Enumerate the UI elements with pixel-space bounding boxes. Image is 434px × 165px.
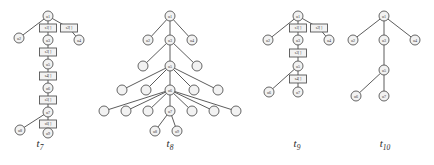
t9-node-u7-label: u7 [296, 90, 300, 95]
t7-node-s2: s2[ ] [61, 24, 78, 32]
tree-edge [170, 90, 236, 111]
caption-t10-subscript: 10 [383, 143, 391, 152]
t7-node-s1: s1[ ] [40, 24, 57, 32]
t8-leaf-a [138, 61, 148, 71]
caption-t8: t8 [140, 137, 200, 152]
t8-node-u6-label: u6 [168, 88, 172, 93]
t8-leaf-i [143, 106, 153, 116]
t7-node-s6-label: s6[ ] [45, 122, 52, 126]
t7-node-u7-label: u7 [46, 110, 50, 115]
t8-node-u4: u4 [187, 35, 197, 45]
t10-node-u6-label: u6 [354, 94, 358, 99]
t7-node-u8-label: u8 [18, 128, 22, 133]
caption-t9: t9 [267, 137, 327, 152]
t9-node-u4: u4 [324, 35, 334, 45]
t7-node-s6: s6[ ] [40, 120, 57, 128]
t8-leaf-l [231, 106, 241, 116]
t8-node-u3-label: u3 [168, 38, 172, 43]
t9-node-u1: u1 [293, 11, 303, 21]
tree-t9: u1s1[ ]s2[ ]u2u3u4s3[ ]u5s4[ ]u6u7 [263, 11, 334, 97]
t8-node-u4-label: u4 [190, 38, 194, 43]
t8-leaf-j [187, 106, 197, 116]
t9-node-u2: u2 [263, 35, 273, 45]
t8-node-u6: u6 [165, 85, 175, 95]
t8-leaf-f [213, 85, 223, 95]
tree-edge [356, 70, 384, 96]
t10-node-u7: u7 [379, 91, 389, 101]
t9-node-s4-label: s4[ ] [295, 77, 302, 81]
caption-t7: t7 [10, 137, 70, 152]
t9-node-u5: u5 [293, 61, 303, 71]
t7-node-u2-label: u2 [17, 36, 21, 41]
t7-node-s2-label: s2[ ] [66, 26, 73, 30]
t8-node-u7: u7 [165, 106, 175, 116]
t8-node-u5-label: u5 [168, 64, 172, 69]
t10-node-u1-label: u1 [382, 14, 386, 19]
t9-node-s1-label: s1[ ] [295, 26, 302, 30]
t8-node-u1: u1 [165, 11, 175, 21]
t9-node-u7: u7 [293, 87, 303, 97]
t7-node-s4: s4[ ] [40, 72, 57, 80]
t9-node-u5-label: u5 [296, 64, 300, 69]
tree-edge [353, 16, 384, 40]
t7-node-s3-label: s3[ ] [45, 50, 52, 54]
t8-leaf-k [209, 106, 219, 116]
t10-node-u2: u2 [348, 35, 358, 45]
t8-leaf-i-shape [143, 106, 153, 116]
caption-t7-subscript: 7 [40, 143, 44, 152]
t9-node-s2: s2[ ] [311, 24, 328, 32]
t8-node-u2-label: u2 [146, 38, 150, 43]
t10-node-u4-label: u4 [413, 38, 417, 43]
t9-node-s3: s3[ ] [290, 49, 307, 57]
t7-node-u4-label: u4 [77, 38, 81, 43]
t8-node-u8-label: u8 [153, 129, 157, 134]
t7-node-u3-label: u3 [46, 38, 50, 43]
t9-node-u6-label: u6 [267, 90, 271, 95]
t8-leaf-l-shape [231, 106, 241, 116]
t9-node-u6: u6 [264, 87, 274, 97]
caption-t8-subscript: 8 [170, 143, 174, 152]
t8-leaf-d-shape [141, 85, 151, 95]
tree-t10-edges [353, 16, 415, 96]
t10-node-u3-label: u3 [382, 38, 386, 43]
t8-leaf-e [189, 85, 199, 95]
t9-node-u3-label: u3 [296, 38, 300, 43]
t8-leaf-d [141, 85, 151, 95]
t7-node-u5: u5 [43, 59, 53, 69]
t7-node-u7: u7 [43, 107, 53, 117]
t7-node-u3: u3 [43, 35, 53, 45]
tree-edge [384, 16, 415, 40]
t8-leaf-g [99, 106, 109, 116]
tree-t8: u1u2u3u4u5u6u7u8u9 [99, 11, 241, 136]
t10-node-u5: u5 [379, 65, 389, 75]
t7-node-s1-label: s1[ ] [45, 26, 52, 30]
t8-node-u1-label: u1 [168, 14, 172, 19]
t8-leaf-j-shape [187, 106, 197, 116]
t9-node-u4-label: u4 [327, 38, 331, 43]
t8-leaf-e-shape [189, 85, 199, 95]
tree-t10: u1u2u3u4u5u6u7 [348, 11, 420, 101]
t8-leaf-b-shape [192, 61, 202, 71]
t9-node-u3: u3 [293, 35, 303, 45]
t10-node-u5-label: u5 [382, 68, 386, 73]
t7-node-s4-label: s4[ ] [45, 74, 52, 78]
t8-leaf-c-shape [117, 85, 127, 95]
t8-leaf-g-shape [99, 106, 109, 116]
tree-t7: u1s1[ ]s2[ ]u2u3u4s3[ ]u5s4[ ]u6s5[ ]u7s… [14, 11, 84, 138]
t8-node-u9: u9 [172, 126, 182, 136]
t7-node-u6-label: u6 [46, 86, 50, 91]
t8-node-u8: u8 [150, 126, 160, 136]
t7-node-u9-label: u9 [46, 131, 50, 136]
t9-node-s2-label: s2[ ] [316, 26, 323, 30]
t7-node-u2: u2 [14, 33, 24, 43]
caption-t10: t10 [355, 137, 415, 152]
t10-node-u3: u3 [379, 35, 389, 45]
t7-node-s3: s3[ ] [40, 48, 57, 56]
t8-leaf-b [192, 61, 202, 71]
t9-node-s3-label: s3[ ] [295, 51, 302, 55]
figure-trees: u1s1[ ]s2[ ]u2u3u4s3[ ]u5s4[ ]u6s5[ ]u7s… [0, 0, 434, 165]
t8-leaf-h [121, 106, 131, 116]
t10-node-u2-label: u2 [351, 38, 355, 43]
caption-t9-subscript: 9 [297, 143, 301, 152]
t10-node-u7-label: u7 [382, 94, 386, 99]
